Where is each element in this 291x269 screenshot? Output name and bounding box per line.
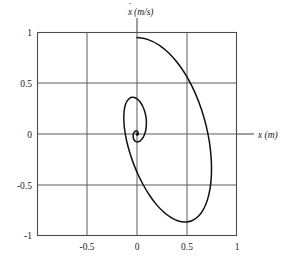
y-tick-label-0.5: 0.5	[20, 79, 32, 89]
y-axis-title: x · (m/s)	[127, 0, 154, 18]
phase-plane-plot: 1 0.5 0 -0.5 -1 -0.5 0 0.5 1 x · (m/s) x…	[0, 0, 291, 269]
y-tick-label--0.5: -0.5	[17, 181, 32, 191]
y-axis-dot-accent: ·	[128, 0, 131, 9]
figure-container: 1 0.5 0 -0.5 -1 -0.5 0 0.5 1 x · (m/s) x…	[0, 0, 291, 269]
y-tick-label-1: 1	[27, 28, 32, 38]
x-tick-label-1: 1	[235, 242, 240, 252]
x-tick-label-0: 0	[135, 242, 140, 252]
y-tick-label-0: 0	[27, 130, 32, 140]
x-tick-label-0.5: 0.5	[181, 242, 193, 252]
y-tick-label--1: -1	[24, 231, 32, 241]
x-axis-tick-labels: -0.5 0 0.5 1	[79, 242, 239, 252]
y-axis-tick-labels: 1 0.5 0 -0.5 -1	[17, 28, 32, 241]
x-axis-title: x (m)	[257, 130, 278, 141]
x-tick-label--0.5: -0.5	[79, 242, 94, 252]
y-axis-title-units: (m/s)	[134, 7, 154, 18]
y-axis-title-symbol: x	[127, 7, 133, 17]
